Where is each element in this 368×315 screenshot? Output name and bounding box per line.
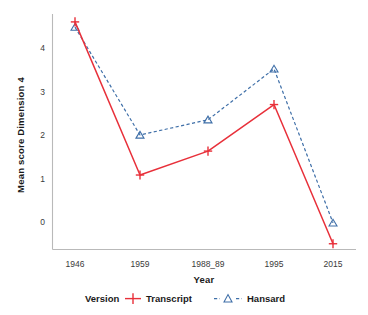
x-axis-title: Year (194, 274, 215, 285)
y-tick-label-4: 4 (40, 43, 45, 53)
y-tick-label-1: 1 (40, 174, 45, 184)
hansard-point (204, 116, 212, 123)
hansard-point (270, 65, 278, 72)
y-axis-title: Mean score Dimension 4 (15, 77, 26, 193)
legend-title: Version (85, 293, 120, 304)
legend-label-transcript: Transcript (146, 293, 193, 304)
series-transcript (71, 17, 337, 248)
transcript-markers (71, 17, 337, 248)
y-tick-label-3: 3 (40, 87, 45, 97)
legend-swatch-hansard (214, 295, 242, 302)
chart-legend: Version Transcript Hansard (85, 293, 285, 304)
legend-label-hansard: Hansard (247, 293, 285, 304)
hansard-markers (71, 24, 337, 226)
hansard-line (75, 27, 333, 223)
chart-figure: Mean score Dimension 4 4 3 2 1 0 1946 19… (0, 0, 368, 315)
x-tick-label-1946: 1946 (66, 259, 85, 269)
transcript-line (75, 22, 333, 244)
x-tick-label-1959: 1959 (131, 259, 150, 269)
y-tick-label-2: 2 (40, 130, 45, 140)
x-tick-label-2015: 2015 (324, 259, 343, 269)
line-chart-svg: Mean score Dimension 4 4 3 2 1 0 1946 19… (0, 0, 368, 315)
x-tick-label-1988_89: 1988_89 (191, 259, 224, 269)
legend-swatch-transcript (125, 293, 141, 304)
x-tick-label-1995: 1995 (265, 259, 284, 269)
series-hansard (71, 24, 337, 226)
y-tick-label-0: 0 (40, 217, 45, 227)
